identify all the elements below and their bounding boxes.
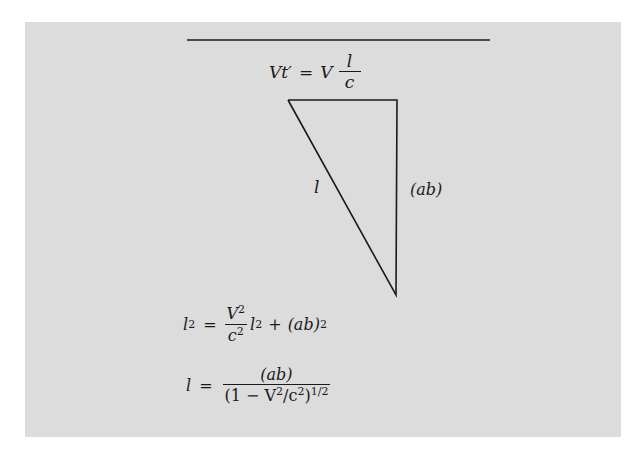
eq1-num-var: V [227, 305, 239, 324]
eq2-fraction: (ab) (1 − V2/c2)1/2 [223, 365, 331, 405]
eq2-numerator: (ab) [258, 365, 294, 384]
vertical-side-text: (ab) [410, 180, 442, 199]
eq2-den-open: (1 − V [225, 386, 277, 405]
eq2-den-mid: /c [283, 386, 297, 405]
eq1-last-term: (ab) [288, 315, 320, 334]
eq1-last-exp: 2 [320, 318, 327, 331]
eq1-den-var: c [228, 326, 237, 345]
top-eq-lhs: Vt′ [269, 62, 292, 82]
eq2-equals: = [199, 376, 212, 395]
eq1-plus: + [268, 315, 281, 334]
eq1-lhs-exp: 2 [188, 318, 195, 331]
eq1-equals: = [203, 315, 216, 334]
top-eq-factor: V [320, 62, 332, 82]
hypotenuse-label: l [314, 177, 319, 197]
eq1-num-exp: 2 [238, 303, 245, 316]
eq1-term-exp: 2 [255, 318, 262, 331]
top-eq-fraction: l c [339, 51, 361, 92]
equation-2: l = (ab) (1 − V2/c2)1/2 [186, 357, 330, 413]
eq1-numerator: V2 [225, 303, 248, 323]
eq1-den-exp: 2 [237, 325, 244, 338]
eq1-denominator: c2 [226, 325, 246, 345]
top-eq-denominator: c [343, 72, 357, 92]
top-eq-numerator: l [345, 51, 354, 71]
equation-1: l2 = V2 c2 l2 + (ab)2 [183, 300, 327, 348]
top-equation: Vt′ = V l c [269, 51, 361, 92]
top-eq-equals: = [299, 62, 313, 82]
eq1-fraction: V2 c2 [225, 303, 248, 345]
triangle-shape [288, 100, 397, 295]
eq2-denominator: (1 − V2/c2)1/2 [223, 385, 331, 405]
eq2-lhs: l [186, 376, 191, 395]
eq2-den-outer-exp: 1/2 [311, 385, 329, 398]
vertical-side-label: (ab) [410, 180, 442, 199]
